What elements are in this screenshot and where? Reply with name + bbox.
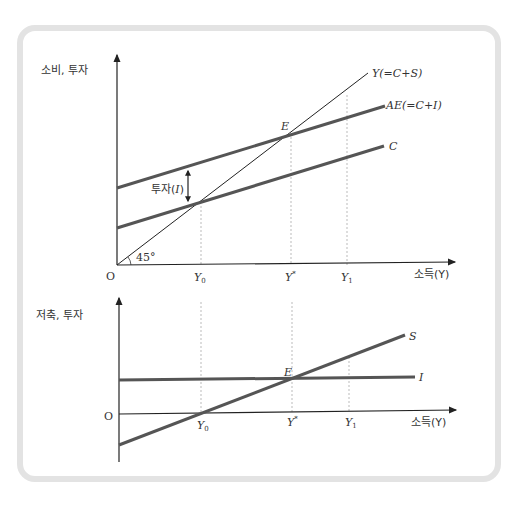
bottom-x-axis-label: 소득(Y) — [411, 416, 446, 429]
top-x-axis — [117, 262, 455, 265]
line-s — [119, 335, 405, 445]
top-origin-label: O — [106, 270, 115, 283]
line-y-equals-c-plus-s — [117, 73, 368, 265]
bottom-chart: 저축, 투자 소득(Y) O E S I Y0 Y* Y1 — [36, 298, 456, 462]
bottom-x-axis — [119, 410, 456, 414]
label-i-line: I — [418, 371, 424, 384]
label-y-line: Y(=C+S) — [372, 67, 422, 80]
label-c-line: C — [389, 140, 398, 153]
line-i — [119, 377, 415, 380]
top-x-axis-label: 소득(Y) — [414, 268, 449, 281]
bottom-tick-y0: Y0 — [197, 419, 209, 433]
label-ae-line: AE(=C+I) — [385, 99, 442, 112]
angle-label: 45° — [136, 251, 156, 264]
angle-arc — [128, 257, 131, 265]
top-y-axis-label: 소비, 투자 — [41, 64, 88, 77]
top-equilibrium-label: E — [280, 120, 289, 133]
bottom-y-axis-label: 저축, 투자 — [36, 309, 83, 322]
top-tick-ystar: Y* — [285, 270, 296, 284]
bottom-tick-y1: Y1 — [345, 416, 357, 430]
label-s-line: S — [409, 330, 417, 343]
bottom-tick-ystar: Y* — [287, 415, 298, 429]
diagram-canvas: 소비, 투자 소득(Y) O 45° 투자(I) E Y(=C+S) AE(=C… — [0, 0, 521, 506]
top-tick-y0: Y0 — [194, 271, 206, 285]
top-chart: 소비, 투자 소득(Y) O 45° 투자(I) E Y(=C+S) AE(=C… — [41, 55, 455, 285]
line-ae — [117, 106, 385, 188]
top-tick-y1: Y1 — [341, 271, 353, 285]
bottom-equilibrium-label: E — [283, 366, 292, 379]
bottom-origin-label: O — [104, 410, 113, 423]
investment-label: 투자(I) — [151, 183, 184, 196]
